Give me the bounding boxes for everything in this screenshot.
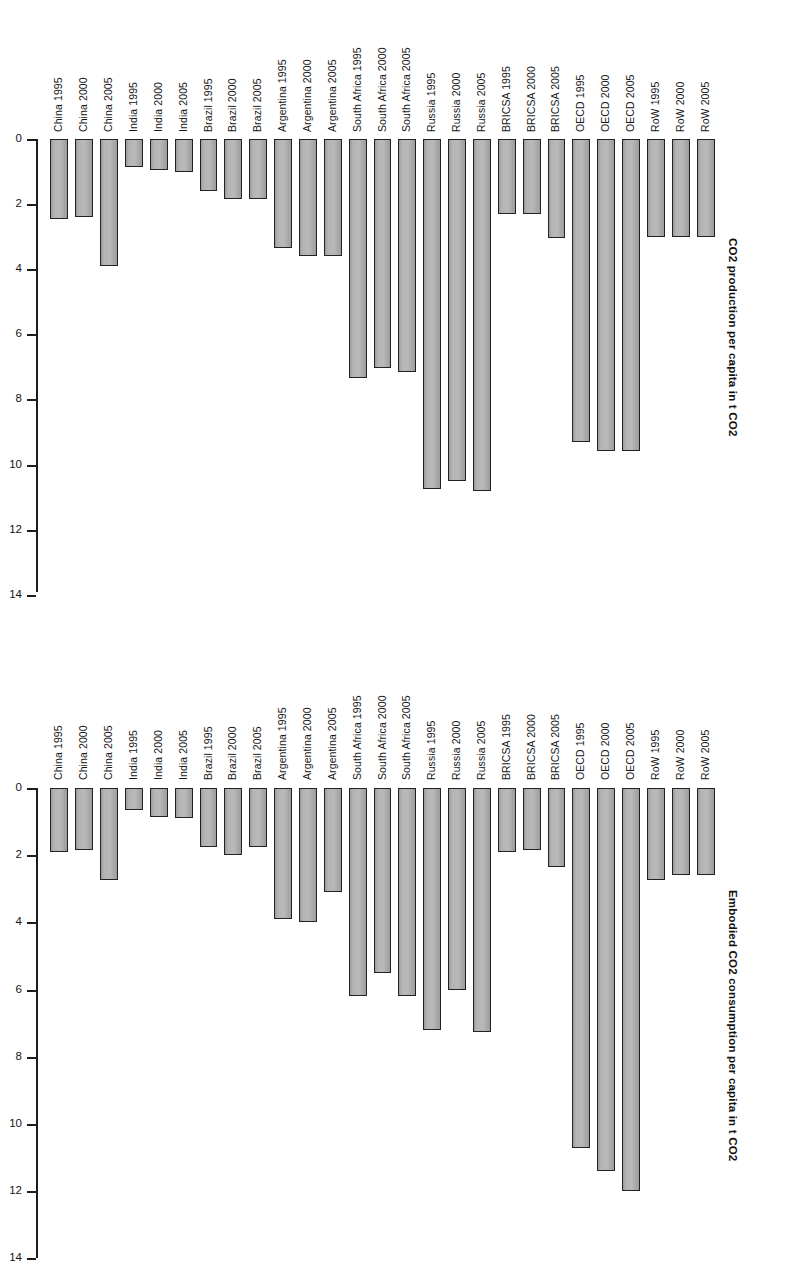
y-axis-tick [27,530,36,532]
bar [125,139,143,167]
y-axis-title-production: CO2 production per capita in t CO2 [726,238,738,437]
category-label: China 2000 [78,624,89,780]
bar [100,788,118,880]
bar [473,139,491,491]
bar [548,788,566,867]
category-label: India 2005 [178,624,189,780]
y-axis-tick [27,204,36,206]
category-label: India 2000 [153,6,164,132]
category-label: China 1995 [53,6,64,132]
category-label: Russia 2000 [451,6,462,132]
y-axis-tick [27,1124,36,1126]
bar [125,788,143,810]
category-labels-production: China 1995China 2000China 2005India 1995… [0,6,800,132]
y-axis-tick [27,922,36,924]
category-label: BRICSA 1995 [501,6,512,132]
category-label: RoW 1995 [650,6,661,132]
bar [349,139,367,378]
bar [349,788,367,996]
bar [572,788,590,1148]
y-axis-tick [27,990,36,992]
bar [498,788,516,852]
y-axis-tick [27,595,36,597]
bar [398,139,416,372]
bar [150,139,168,170]
bar [75,139,93,217]
bar [299,788,317,922]
y-axis-tick [27,1057,36,1059]
bar [200,788,218,847]
y-axis-tick [27,269,36,271]
bar [249,788,267,847]
category-label: India 2005 [178,6,189,132]
bar [75,788,93,850]
y-axis-tick [27,465,36,467]
bar [50,788,68,852]
y-axis-line [36,788,38,1258]
category-label: China 2000 [78,6,89,132]
bar [548,139,566,238]
category-label: RoW 1995 [650,624,661,780]
y-axis-tick-label: 2 [0,198,22,210]
y-axis-tick-label: 12 [0,524,22,536]
bar [398,788,416,996]
category-label: BRICSA 2000 [526,6,537,132]
y-axis-tick-label: 0 [0,133,22,145]
bar [150,788,168,817]
bar [374,139,392,368]
bar [200,139,218,191]
category-label: China 2005 [103,6,114,132]
category-label: OECD 2005 [625,6,636,132]
category-label: India 1995 [128,624,139,780]
category-label: China 2005 [103,624,114,780]
category-label: RoW 2005 [700,624,711,780]
y-axis-tick-label: 6 [0,328,22,340]
bar [423,788,441,1030]
bar [448,788,466,990]
bar [175,788,193,818]
y-axis-tick [27,399,36,401]
y-axis-title-consumption: Embodied CO2 consumption per capita in t… [726,890,738,1161]
bar [697,139,715,237]
plot-area-production: 02468101214 [0,132,800,602]
bar-group-consumption [0,780,800,1268]
bar [523,788,541,850]
category-label: Russia 2005 [476,624,487,780]
category-label: Argentina 1995 [277,624,288,780]
y-axis-tick-label: 8 [0,1051,22,1063]
bar [647,788,665,880]
y-axis-line [36,139,38,592]
category-label: South Africa 2000 [377,624,388,780]
bar [697,788,715,875]
category-label: China 1995 [53,624,64,780]
category-labels-consumption: China 1995China 2000China 2005India 1995… [0,624,800,780]
bar [672,139,690,237]
y-axis-tick-label: 10 [0,459,22,471]
co2-figure: China 1995China 2000China 2005India 1995… [0,0,800,1271]
bar [597,139,615,451]
y-axis-tick [27,1191,36,1193]
y-axis-tick [27,139,36,141]
y-axis-tick-label: 14 [0,589,22,601]
category-label: Russia 2005 [476,6,487,132]
bar [672,788,690,875]
y-axis-tick-label: 2 [0,849,22,861]
category-label: OECD 2000 [600,6,611,132]
bar [274,139,292,248]
bar [622,139,640,451]
category-label: Russia 1995 [426,6,437,132]
category-label: RoW 2000 [675,624,686,780]
category-label: Brazil 2005 [252,624,263,780]
bar [647,139,665,237]
bar [224,788,242,855]
bar [597,788,615,1171]
category-label: BRICSA 2005 [550,624,561,780]
category-label: OECD 1995 [575,6,586,132]
y-axis-tick-label: 12 [0,1185,22,1197]
y-axis-tick-label: 6 [0,984,22,996]
bar [224,139,242,199]
category-label: Brazil 1995 [203,6,214,132]
bar [473,788,491,1032]
category-label: RoW 2000 [675,6,686,132]
category-label: Brazil 1995 [203,624,214,780]
